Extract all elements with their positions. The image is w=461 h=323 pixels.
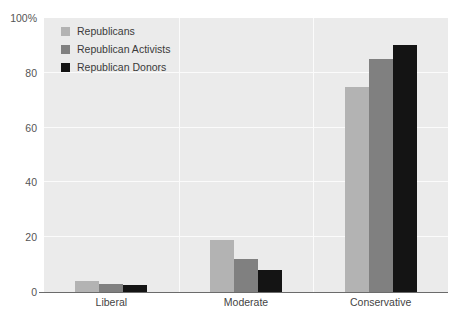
- legend-swatch-icon: [61, 63, 70, 72]
- y-tick-label-100: 100%: [1, 13, 37, 24]
- y-tick-label-0: 0: [1, 287, 37, 298]
- bar-group-conservative: [345, 18, 417, 292]
- chart-legend: RepublicansRepublican ActivistsRepublica…: [61, 23, 170, 77]
- bar-moderate-republicans: [210, 240, 234, 292]
- bar-liberal-republican-donors: [123, 285, 147, 292]
- y-tick-label-20: 20: [1, 232, 37, 243]
- bar-chart: 020406080100% RepublicansRepublican Acti…: [0, 0, 461, 323]
- bar-conservative-republican-donors: [393, 45, 417, 292]
- bar-conservative-republican-activists: [369, 59, 393, 292]
- bar-moderate-republican-activists: [234, 259, 258, 292]
- bar-liberal-republican-activists: [99, 284, 123, 292]
- legend-label: Republicans: [77, 26, 135, 37]
- bar-moderate-republican-donors: [258, 270, 282, 292]
- y-tick-label-80: 80: [1, 68, 37, 79]
- gridline-x-2: [313, 18, 314, 292]
- legend-label: Republican Donors: [77, 62, 166, 73]
- x-axis-line: [44, 292, 448, 293]
- x-axis-label-liberal: Liberal: [44, 296, 179, 309]
- legend-item-republican-activists: Republican Activists: [61, 41, 170, 57]
- legend-swatch-icon: [61, 27, 70, 36]
- legend-item-republicans: Republicans: [61, 23, 170, 39]
- x-axis-label-conservative: Conservative: [313, 296, 448, 309]
- y-tick-label-40: 40: [1, 177, 37, 188]
- bar-conservative-republicans: [345, 87, 369, 293]
- legend-swatch-icon: [61, 45, 70, 54]
- legend-item-republican-donors: Republican Donors: [61, 59, 170, 75]
- bar-liberal-republicans: [75, 281, 99, 292]
- y-axis: 020406080100%: [0, 0, 37, 323]
- gridline-x-1: [179, 18, 180, 292]
- y-tick-mark-0: [39, 292, 44, 293]
- bar-group-moderate: [210, 18, 282, 292]
- legend-label: Republican Activists: [77, 44, 170, 55]
- y-tick-label-60: 60: [1, 123, 37, 134]
- x-axis-label-moderate: Moderate: [179, 296, 314, 309]
